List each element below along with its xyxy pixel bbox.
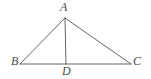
vertex-label-a: A	[60, 1, 67, 13]
segment-AB	[20, 18, 65, 64]
segment-AD	[65, 18, 66, 64]
geometry-figure: A B C D	[0, 0, 151, 79]
vertex-label-b: B	[11, 55, 18, 67]
vertex-label-c: C	[133, 55, 141, 67]
triangle-diagram-svg	[0, 0, 151, 79]
segment-AC	[65, 18, 131, 64]
vertex-label-d: D	[62, 65, 71, 77]
